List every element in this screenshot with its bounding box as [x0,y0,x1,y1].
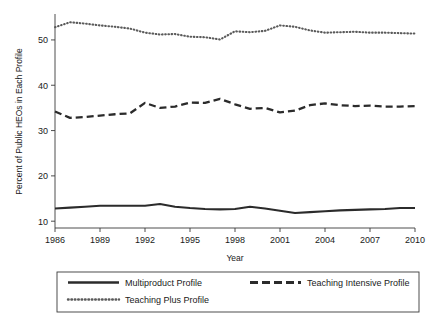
series-line-multiproduct-profile [55,204,415,213]
x-tick-label: 1998 [225,235,245,245]
y-tick-label: 40 [38,81,48,91]
chart-figure: 1020304050198619891992199519982001200420… [0,0,431,319]
legend: Multiproduct ProfileTeaching Intensive P… [57,272,419,312]
series-group [55,22,415,213]
series-line-teaching-plus-profile [55,22,415,39]
y-tick-label: 30 [38,126,48,136]
legend-label: Teaching Intensive Profile [307,278,410,288]
x-tick-label: 2010 [405,235,425,245]
x-tick-label: 1989 [90,235,110,245]
x-axis-ticks: 198619891992199519982001200420072010 [45,228,425,245]
y-axis-ticks: 1020304050 [38,35,55,226]
x-tick-label: 1986 [45,235,65,245]
x-tick-label: 1992 [135,235,155,245]
legend-label: Teaching Plus Profile [125,295,209,305]
x-axis-title: Year [226,253,243,263]
legend-label: Multiproduct Profile [125,278,202,288]
axes-group [55,14,415,228]
x-tick-label: 1995 [180,235,200,245]
x-tick-label: 2004 [315,235,335,245]
y-tick-label: 10 [38,217,48,227]
series-line-teaching-intensive-profile [55,99,415,118]
y-axis-title: Percent of Public HEOs in Each Profile [14,48,24,195]
x-tick-label: 2007 [360,235,380,245]
y-tick-label: 50 [38,35,48,45]
y-tick-label: 20 [38,171,48,181]
line-chart-canvas: 1020304050198619891992199519982001200420… [0,0,431,319]
x-tick-label: 2001 [270,235,290,245]
